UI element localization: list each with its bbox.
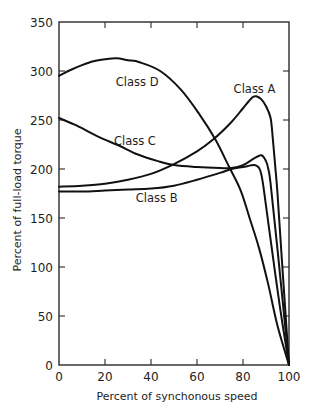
y-tick-label: 300 <box>30 65 53 79</box>
label-class-d: Class D <box>116 75 159 89</box>
x-tick-label: 0 <box>55 370 63 384</box>
label-class-a: Class A <box>234 82 276 96</box>
x-tick-label: 100 <box>278 370 301 384</box>
torque-speed-chart: 050100150200250300350020406080100 Class … <box>0 0 315 416</box>
chart-canvas: 050100150200250300350020406080100 Class … <box>0 0 315 416</box>
y-tick-label: 50 <box>38 310 53 324</box>
x-tick-label: 40 <box>143 370 158 384</box>
curve-class-d <box>59 58 289 365</box>
x-tick-label: 80 <box>235 370 250 384</box>
series-labels: Class AClass BClass CClass D <box>114 75 276 206</box>
x-axis-title: Percent of synchonous speed <box>96 390 257 403</box>
curve-class-c <box>59 118 289 365</box>
y-tick-label: 150 <box>30 212 53 226</box>
y-tick-label: 250 <box>30 114 53 128</box>
y-tick-label: 100 <box>30 261 53 275</box>
y-tick-label: 350 <box>30 16 53 30</box>
label-class-b: Class B <box>136 191 178 205</box>
y-axis-title: Percent of full-load torque <box>11 128 24 271</box>
data-curves <box>59 58 289 365</box>
label-class-c: Class C <box>114 134 156 148</box>
y-tick-label: 200 <box>30 163 53 177</box>
x-tick-label: 60 <box>189 370 204 384</box>
x-tick-label: 20 <box>97 370 112 384</box>
y-tick-label: 0 <box>45 359 53 373</box>
